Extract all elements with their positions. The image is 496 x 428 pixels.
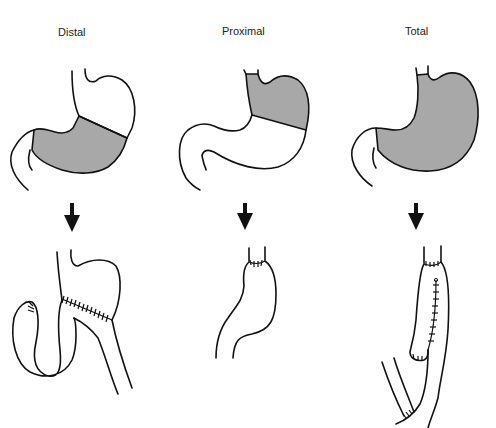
reconstruction-distal bbox=[13, 250, 132, 394]
stomach-proximal-before bbox=[179, 70, 308, 190]
stomach-total-before bbox=[352, 66, 478, 186]
reconstruction-proximal bbox=[216, 247, 276, 358]
down-arrow-icon bbox=[64, 203, 80, 232]
reconstruction-total bbox=[382, 246, 449, 428]
down-arrow-icon bbox=[237, 203, 253, 230]
gastrectomy-diagram bbox=[0, 0, 496, 428]
stomach-distal-before bbox=[11, 69, 135, 190]
down-arrow-icon bbox=[408, 203, 424, 230]
